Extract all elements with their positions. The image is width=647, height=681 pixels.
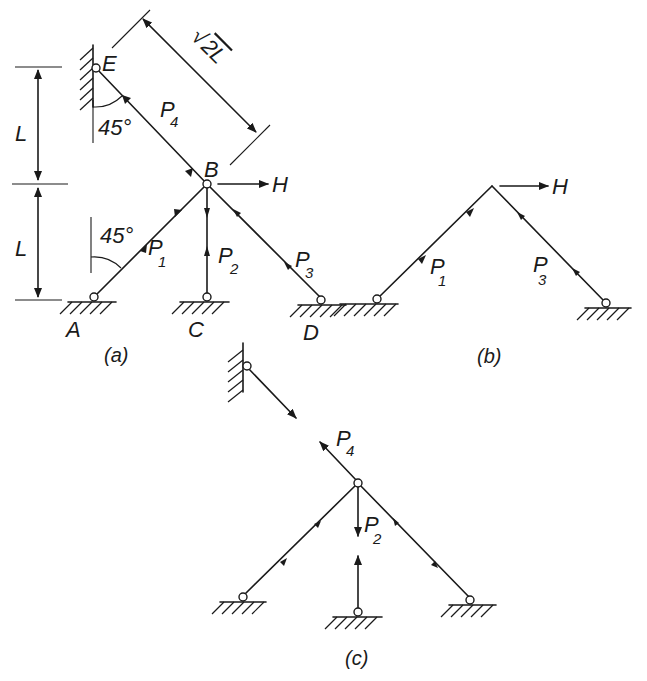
svg-text:2: 2 [372,530,382,547]
svg-text:3: 3 [538,271,547,288]
ground-support-c-left [212,602,266,614]
panel-a: L L √ 2L P [12,10,346,366]
node-label-A: A [64,317,81,342]
pin-A [90,293,98,301]
ground-support-c-center [325,617,382,629]
bar-P2: P 2 [204,184,239,297]
bar-P1-c [243,483,358,596]
dim-label-upper-L: L [15,121,27,146]
angle-label-upper: 45° [98,115,131,140]
svg-text:4: 4 [346,442,354,459]
wall-support-c [228,343,243,402]
wall-support-E [80,45,93,110]
pin-b-right [602,299,610,307]
dim-label-lower-L: L [15,236,27,261]
bar-P3-b [492,186,606,303]
svg-text:3: 3 [305,264,314,281]
panel-c: P 4 P 2 [212,343,496,669]
caption-c: (c) [345,647,368,669]
caption-a: (a) [104,344,128,366]
pin-c-center [354,608,362,616]
ground-support-c-right [441,605,496,617]
angle-label-lower: 45° [100,223,133,248]
pin-c-right [466,596,474,604]
ground-support-b-left [334,304,398,316]
pin-c-node [354,479,362,487]
panel-b: H P 1 P 3 (b) [334,174,631,367]
pin-E [92,64,100,72]
svg-text:1: 1 [158,253,166,270]
truss-diagram: L L √ 2L P [0,0,647,681]
pin-b-left [373,295,381,303]
caption-b: (b) [477,345,501,367]
force-on-wall-arrow [248,368,296,418]
pin-c-wall [243,362,251,370]
ground-support-b-right [577,308,631,320]
node-label-D: D [303,320,319,345]
pin-c-left [239,593,247,601]
svg-text:2: 2 [229,260,239,277]
label-H: H [272,172,288,197]
node-label-B: B [204,157,219,182]
svg-text:1: 1 [438,272,446,289]
node-label-E: E [102,51,117,76]
ground-support-A [60,302,116,314]
dimension-sqrt2L: √ 2L [112,10,270,165]
ground-support-D [290,305,346,317]
bar-P3: P 3 [207,184,321,298]
bar-P1-b [377,186,492,299]
node-label-C: C [188,317,204,342]
ground-support-C [172,302,229,314]
label-H-b: H [552,174,568,199]
dimension-L-vertical: L L [12,67,68,300]
pin-D [317,296,325,304]
svg-text:4: 4 [170,113,178,130]
pin-C [203,293,211,301]
